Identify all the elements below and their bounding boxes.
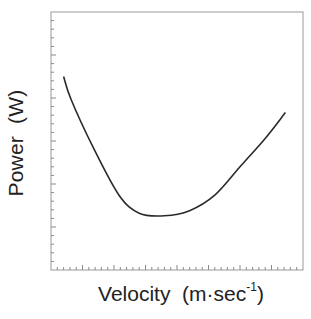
- x-axis-label-exponent: -1: [246, 280, 257, 294]
- chart-container: Power (W) Velocity (m·sec-1): [0, 0, 311, 319]
- x-axis-label-main: Velocity (m·sec: [98, 282, 246, 305]
- y-axis-ticks: [51, 21, 56, 262]
- x-axis-label: Velocity (m·sec-1): [98, 282, 264, 306]
- power-curve: [64, 77, 286, 217]
- plot-frame: [51, 12, 303, 270]
- plot-svg: [0, 0, 311, 319]
- y-axis-label: Power (W): [4, 90, 28, 197]
- x-axis-label-close: ): [257, 282, 264, 305]
- x-axis-ticks: [57, 265, 296, 270]
